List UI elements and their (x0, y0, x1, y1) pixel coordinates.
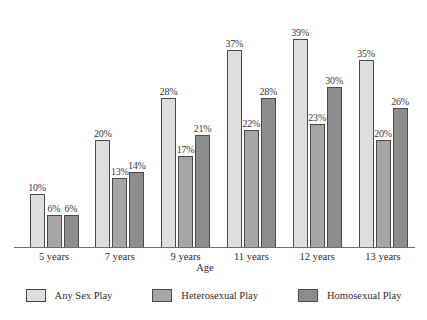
bar[interactable] (64, 215, 79, 247)
legend-label: Heterosexual Play (181, 290, 258, 301)
bar[interactable] (393, 108, 408, 247)
legend-item[interactable]: Homosexual Play (298, 289, 401, 302)
x-tick-label: 12 years (300, 251, 335, 262)
bar-value-label: 26% (391, 96, 409, 107)
bar-group: 35%20%26% (357, 60, 410, 247)
bar-wrap: 22% (244, 130, 259, 247)
bar[interactable] (376, 140, 391, 247)
bar[interactable] (261, 98, 276, 247)
x-tick-label: 7 years (105, 251, 135, 262)
bar[interactable] (195, 135, 210, 247)
bar[interactable] (244, 130, 259, 247)
bar-group: 10%6%6% (28, 194, 81, 247)
bar-value-label: 6% (48, 203, 61, 214)
bar[interactable] (227, 50, 242, 247)
bar-wrap: 13% (112, 178, 127, 247)
bar-group: 39%23%30% (291, 39, 344, 247)
bar-value-label: 28% (260, 86, 278, 97)
x-tick-label: 9 years (171, 251, 201, 262)
bar-wrap: 20% (95, 140, 110, 247)
legend-item[interactable]: Heterosexual Play (152, 289, 258, 302)
bar-wrap: 20% (376, 140, 391, 247)
bar-value-label: 20% (94, 128, 112, 139)
bar-value-label: 10% (28, 182, 46, 193)
bar[interactable] (30, 194, 45, 247)
bar-value-label: 23% (308, 112, 326, 123)
plot-area: 10%6%6%20%13%14%28%17%21%37%22%28%39%23%… (14, 8, 415, 248)
bar-wrap: 6% (64, 215, 79, 247)
x-tick-label: 13 years (365, 251, 400, 262)
legend-swatch (298, 289, 318, 302)
bar[interactable] (161, 98, 176, 247)
legend-label: Any Sex Play (55, 290, 113, 301)
legend-item[interactable]: Any Sex Play (26, 289, 113, 302)
bar-value-label: 39% (291, 27, 309, 38)
chart-legend: Any Sex PlayHeterosexual PlayHomosexual … (0, 289, 427, 302)
bar-wrap: 21% (195, 135, 210, 247)
bar[interactable] (178, 156, 193, 247)
bar-wrap: 39% (293, 39, 308, 247)
x-axis-title: Age (196, 262, 214, 273)
bar[interactable] (293, 39, 308, 247)
bar[interactable] (47, 215, 62, 247)
legend-swatch (152, 289, 172, 302)
chart-page: 10%6%6%20%13%14%28%17%21%37%22%28%39%23%… (0, 0, 427, 320)
bar-group: 20%13%14% (93, 140, 146, 247)
bar[interactable] (359, 60, 374, 247)
bar-wrap: 26% (393, 108, 408, 247)
bar-wrap: 23% (310, 124, 325, 247)
bar[interactable] (112, 178, 127, 247)
bar-wrap: 28% (261, 98, 276, 247)
bar-wrap: 28% (161, 98, 176, 247)
x-tick-label: 5 years (39, 251, 69, 262)
bar-value-label: 35% (357, 48, 375, 59)
bar-value-label: 17% (177, 144, 195, 155)
bar-value-label: 28% (160, 86, 178, 97)
bar-value-label: 22% (243, 118, 261, 129)
bar-value-label: 14% (128, 160, 146, 171)
bar-wrap: 17% (178, 156, 193, 247)
bar-wrap: 35% (359, 60, 374, 247)
bar-group: 37%22%28% (225, 50, 278, 247)
bar-value-label: 37% (226, 38, 244, 49)
bar-group: 28%17%21% (159, 98, 212, 247)
legend-label: Homosexual Play (327, 290, 401, 301)
x-axis-line (14, 247, 415, 248)
bar[interactable] (95, 140, 110, 247)
bar-value-label: 6% (65, 203, 78, 214)
x-tick-label: 11 years (234, 251, 269, 262)
bar-value-label: 30% (325, 75, 343, 86)
bar-wrap: 14% (129, 172, 144, 247)
legend-swatch (26, 289, 46, 302)
bar-wrap: 10% (30, 194, 45, 247)
bar[interactable] (327, 87, 342, 247)
bar[interactable] (310, 124, 325, 247)
bar-wrap: 37% (227, 50, 242, 247)
bar-value-label: 20% (374, 128, 392, 139)
bar-value-label: 21% (194, 123, 212, 134)
bar[interactable] (129, 172, 144, 247)
bar-wrap: 30% (327, 87, 342, 247)
bar-wrap: 6% (47, 215, 62, 247)
bar-value-label: 13% (111, 166, 129, 177)
